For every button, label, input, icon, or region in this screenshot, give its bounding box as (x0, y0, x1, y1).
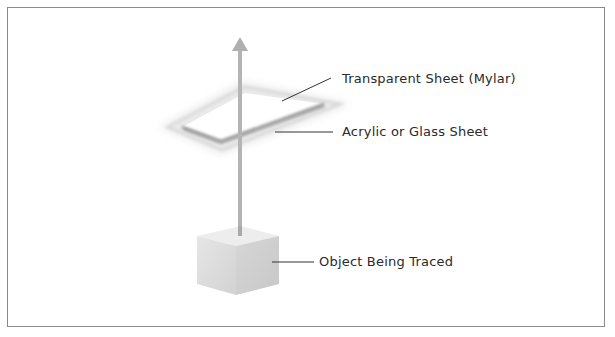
label-object: Object Being Traced (319, 254, 453, 269)
tracing-setup-illustration (0, 0, 615, 337)
label-transparent-sheet: Transparent Sheet (Mylar) (342, 71, 516, 86)
label-acrylic-sheet: Acrylic or Glass Sheet (342, 124, 488, 139)
object-cube (197, 226, 279, 295)
